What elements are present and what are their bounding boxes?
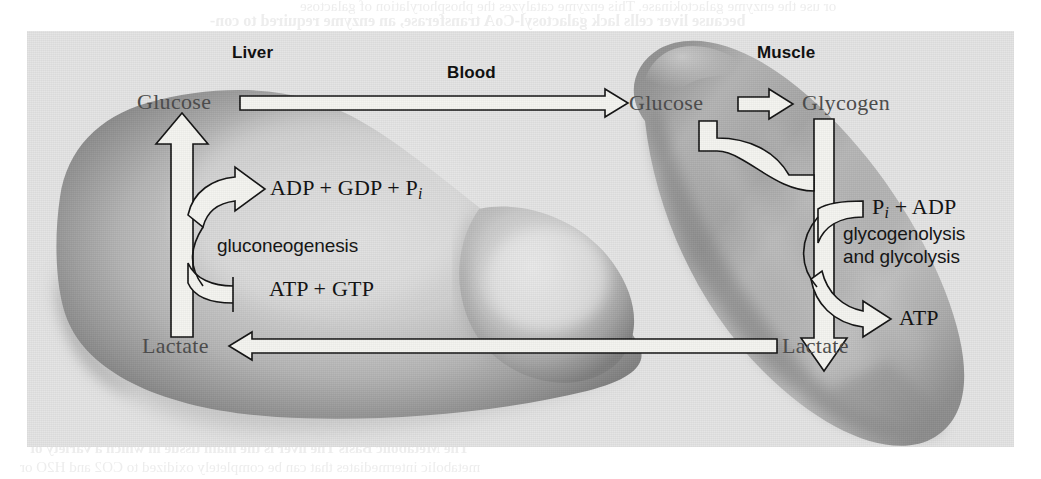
label-liver: Liver: [232, 43, 273, 63]
muscle-pathway-line-1: glycogenolysis: [843, 222, 965, 245]
muscle-pathway-line-2: and glycolysis: [843, 245, 965, 268]
label-blood: Blood: [447, 63, 496, 83]
label-muscle-reactants: Pi + ADP: [872, 194, 956, 222]
label-muscle-glycogen: Glycogen: [802, 90, 890, 116]
label-liver-products: ADP + GDP + Pi: [270, 175, 423, 203]
label-liver-glucose: Glucose: [137, 89, 211, 115]
label-liver-lactate: Lactate: [142, 333, 209, 359]
liver-organ-shape: [56, 90, 641, 430]
label-liver-pathway: gluconeogenesis: [217, 235, 358, 257]
show-through-text-top-2: because liver cells lack galactosyl-CoA …: [210, 12, 745, 30]
label-muscle: Muscle: [757, 43, 815, 63]
liver-products-text: ADP + GDP + P: [270, 175, 418, 200]
muscle-reactants-rest: + ADP: [889, 194, 956, 219]
label-muscle-lactate: Lactate: [782, 333, 849, 359]
show-through-text-bottom-2: metabolic intermediates that can be comp…: [20, 459, 480, 476]
muscle-reactants-text: P: [872, 194, 884, 219]
label-muscle-glucose: Glucose: [629, 90, 703, 116]
figure-plate: Liver Blood Muscle Glucose Lactate ADP +…: [27, 31, 1014, 447]
label-liver-reactants: ATP + GTP: [269, 276, 374, 302]
figure-stage: or use the enzyme galactokinase. This en…: [0, 0, 1041, 479]
liver-products-subscript: i: [418, 185, 423, 202]
label-muscle-atp: ATP: [899, 305, 939, 331]
label-muscle-pathway: glycogenolysis and glycolysis: [843, 222, 965, 268]
show-through-text-top-1: or use the enzyme galactokinase. This en…: [300, 0, 836, 15]
